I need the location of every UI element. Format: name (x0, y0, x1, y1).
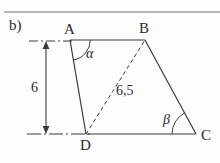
angle-label-beta: β (163, 113, 170, 127)
vertex-label-a: A (64, 22, 75, 37)
height-dimension-label: 6 (31, 81, 38, 95)
dimension-arrowhead-bottom (43, 126, 50, 134)
edge-b-c (145, 40, 196, 134)
angle-arc-beta (172, 113, 185, 134)
angle-label-alpha: α (86, 47, 93, 61)
geometry-figure: b) A B C D α β 6,5 6 (0, 0, 220, 163)
edge-d-a (70, 40, 86, 134)
diagonal-length-label: 6,5 (116, 84, 134, 98)
vertex-label-b: B (139, 21, 149, 36)
part-label: b) (9, 18, 22, 33)
vertex-label-c: C (201, 128, 211, 143)
vertex-label-d: D (80, 138, 91, 153)
dimension-arrowhead-top (43, 41, 50, 49)
